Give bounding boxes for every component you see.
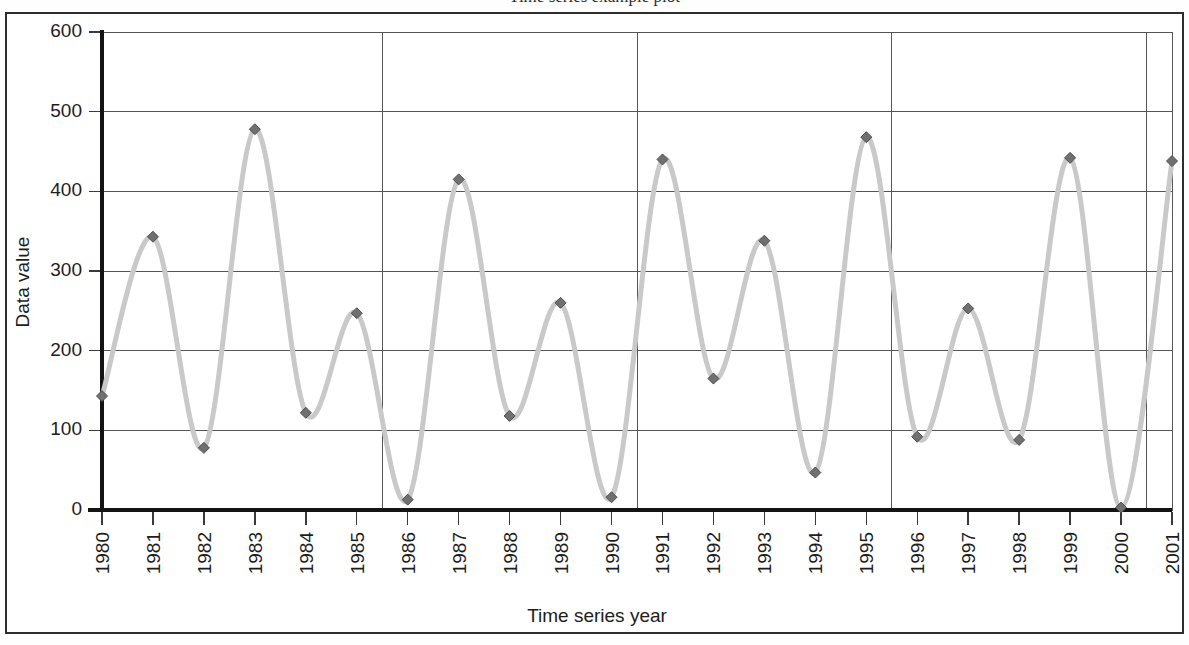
- x-tick-label: 1984: [296, 532, 317, 575]
- x-tick-label: 1993: [754, 532, 775, 574]
- x-tick-label: 1988: [500, 532, 521, 574]
- x-tick-label: 1991: [652, 532, 673, 574]
- x-tick-label: 1992: [703, 532, 724, 574]
- x-tick-label: 1980: [92, 532, 113, 574]
- x-tick-label: 1982: [194, 532, 215, 574]
- x-tick-label: 1994: [805, 532, 826, 575]
- x-axis-title: Time series year: [527, 605, 667, 626]
- y-tick-label: 600: [50, 20, 82, 41]
- x-axis-ticks: 1980198119821983198419851986198719881989…: [92, 512, 1182, 574]
- y-tick-label: 400: [50, 179, 82, 200]
- x-tick-label: 1985: [347, 532, 368, 574]
- x-tick-label: 1983: [245, 532, 266, 574]
- y-tick-label: 500: [50, 100, 82, 121]
- x-tick-label: 1990: [602, 532, 623, 574]
- x-tick-label: 1986: [398, 532, 419, 574]
- data-point-marker: [97, 391, 108, 402]
- y-axis-ticks: 0100200300400500600: [50, 20, 102, 519]
- y-tick-label: 200: [50, 339, 82, 360]
- y-tick-label: 100: [50, 418, 82, 439]
- x-tick-label: 1989: [551, 532, 572, 574]
- x-tick-label: 1997: [958, 532, 979, 574]
- x-tick-label: 2000: [1111, 532, 1132, 574]
- x-tick-label: 1995: [856, 532, 877, 574]
- y-tick-label: 0: [71, 498, 82, 519]
- y-axis-title: Data value: [12, 237, 33, 328]
- figure-frame: 0100200300400500600 19801981198219831984…: [5, 12, 1184, 634]
- x-tick-label: 1987: [449, 532, 470, 574]
- x-tick-label: 1999: [1060, 532, 1081, 574]
- data-point-marker: [1167, 156, 1178, 167]
- line-chart: 0100200300400500600 19801981198219831984…: [7, 14, 1182, 632]
- x-tick-label: 2001: [1162, 532, 1182, 574]
- y-tick-label: 300: [50, 259, 82, 280]
- x-tick-label: 1998: [1009, 532, 1030, 574]
- chart-title-text: Time series example plot: [509, 0, 680, 5]
- x-tick-label: 1996: [907, 532, 928, 574]
- figure-page: Time series example plot 010020030040050…: [0, 0, 1189, 645]
- x-tick-label: 1981: [143, 532, 164, 574]
